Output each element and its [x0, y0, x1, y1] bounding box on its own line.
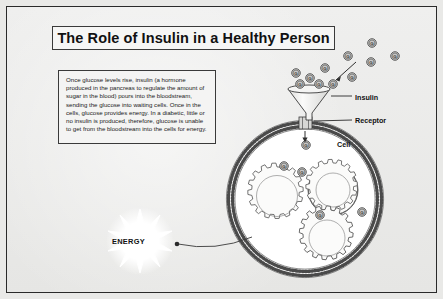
- page-title: The Role of Insulin in a Healthy Person: [57, 30, 329, 46]
- label-energy: ENERGY: [112, 237, 145, 246]
- receptor-leader: [314, 120, 352, 121]
- description-text: Once glucose levels rise, insulin (a hor…: [66, 76, 209, 133]
- insulin-diagram-figure: G: [0, 0, 443, 299]
- description-box: Once glucose levels rise, insulin (a hor…: [58, 70, 216, 144]
- title-box: The Role of Insulin in a Healthy Person: [52, 26, 335, 50]
- label-cell: Cell: [337, 140, 350, 149]
- label-insulin: Insulin: [355, 93, 378, 102]
- insulin-funnel: [288, 85, 330, 120]
- label-receptor: Receptor: [355, 116, 386, 125]
